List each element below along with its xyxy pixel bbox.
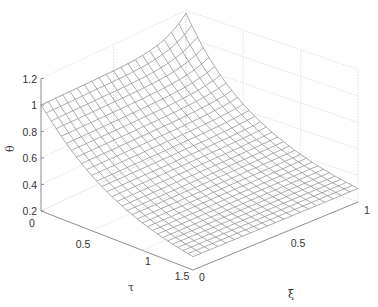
y-axis-label: ξ [288, 288, 294, 301]
z-tick-label: 0.8 [22, 126, 37, 138]
y-tick-label: 0 [199, 271, 205, 283]
x-tick-label: 0 [29, 217, 35, 229]
y-tick-label: 0.5 [291, 237, 306, 249]
x-axis-label: τ [128, 281, 134, 294]
x-tick-label: 0.5 [76, 238, 91, 250]
z-tick-label: 0.2 [22, 205, 37, 217]
z-tick-label: 1 [31, 99, 37, 111]
z-axis-label: θ [4, 145, 17, 152]
z-tick-label: 0.4 [22, 179, 37, 191]
x-tick-label: 1 [145, 255, 151, 267]
x-tick-label: 1.5 [175, 270, 190, 282]
surface-mesh [41, 13, 358, 256]
surface-plot: 0.20.40.60.811.200.511.500.51 θ τ ξ [0, 0, 378, 307]
z-tick-label: 0.6 [22, 152, 37, 164]
z-tick-label: 1.2 [22, 73, 37, 85]
y-tick-label: 1 [364, 204, 370, 216]
